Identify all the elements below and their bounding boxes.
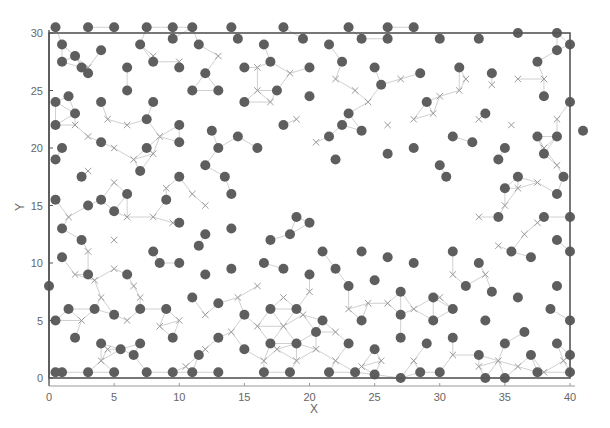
- node-marker: [122, 63, 132, 73]
- node-marker: [174, 218, 184, 228]
- node-marker: [415, 367, 425, 377]
- node-marker: [331, 155, 341, 165]
- node-marker: [194, 350, 204, 360]
- node-marker: [142, 367, 152, 377]
- node-marker: [64, 91, 74, 101]
- node-marker: [383, 252, 393, 262]
- node-marker: [239, 310, 249, 320]
- node-marker: [461, 281, 471, 291]
- node-marker: [285, 229, 295, 239]
- node-marker: [57, 143, 67, 153]
- x-axis-label: X: [310, 402, 318, 416]
- node-marker: [83, 270, 93, 280]
- node-marker: [96, 45, 106, 55]
- node-marker: [207, 126, 217, 136]
- node-marker: [344, 281, 354, 291]
- node-marker: [77, 172, 87, 182]
- node-marker: [122, 270, 132, 280]
- node-marker: [500, 143, 510, 153]
- node-marker: [558, 172, 568, 182]
- node-marker: [265, 339, 275, 349]
- y-axis-label: Y: [13, 203, 27, 211]
- node-marker: [109, 367, 119, 377]
- x-tick-label: 10: [173, 391, 185, 403]
- cross-marker: [111, 145, 117, 151]
- node-marker: [226, 264, 236, 274]
- node-marker: [252, 143, 262, 153]
- cross-marker: [85, 133, 91, 139]
- cross-marker: [202, 312, 208, 318]
- cross-marker: [254, 283, 260, 289]
- cross-marker: [157, 323, 163, 329]
- node-marker: [239, 344, 249, 354]
- cross-marker: [411, 358, 417, 364]
- node-marker: [109, 22, 119, 32]
- node-marker: [116, 344, 126, 354]
- node-marker: [259, 367, 269, 377]
- node-marker: [370, 63, 380, 73]
- y-tick-label: 10: [31, 257, 43, 269]
- node-marker: [135, 339, 145, 349]
- cross-marker: [300, 312, 306, 318]
- cross-marker: [521, 231, 527, 237]
- node-marker: [305, 91, 315, 101]
- edges-layer: [56, 27, 570, 378]
- cross-marker: [130, 156, 136, 162]
- y-tick-label: 20: [31, 142, 43, 154]
- x-tick-label: 15: [238, 391, 250, 403]
- cross-marker: [98, 294, 104, 300]
- node-marker: [226, 189, 236, 199]
- node-marker: [291, 304, 301, 314]
- node-marker: [226, 22, 236, 32]
- node-marker: [552, 45, 562, 55]
- node-marker: [396, 287, 406, 297]
- cross-marker: [65, 214, 71, 220]
- node-marker: [409, 258, 419, 268]
- node-marker: [396, 333, 406, 343]
- node-marker: [259, 258, 269, 268]
- node-marker: [122, 189, 132, 199]
- node-marker: [448, 304, 458, 314]
- node-marker: [174, 172, 184, 182]
- node-marker: [383, 34, 393, 44]
- node-marker: [376, 80, 386, 90]
- node-marker: [239, 63, 249, 73]
- cross-marker: [85, 168, 91, 174]
- node-marker: [324, 132, 334, 142]
- cross-marker: [202, 202, 208, 208]
- node-marker: [311, 327, 321, 337]
- cross-marker: [397, 76, 403, 82]
- node-marker: [422, 339, 432, 349]
- node-marker: [187, 293, 197, 303]
- node-marker: [487, 287, 497, 297]
- node-marker: [194, 40, 204, 50]
- node-marker: [285, 367, 295, 377]
- cross-marker: [430, 110, 436, 116]
- cross-marker: [189, 191, 195, 197]
- node-marker: [148, 247, 158, 257]
- node-marker: [396, 310, 406, 320]
- node-marker: [474, 350, 484, 360]
- node-marker: [526, 252, 536, 262]
- edge: [296, 349, 316, 361]
- node-marker: [187, 367, 197, 377]
- x-tick-label: 25: [369, 391, 381, 403]
- node-marker: [500, 339, 510, 349]
- cross-marker: [111, 179, 117, 185]
- cross-marker: [482, 271, 488, 277]
- node-marker: [305, 63, 315, 73]
- node-marker: [291, 339, 301, 349]
- cross-marker: [476, 116, 482, 122]
- node-marker: [539, 91, 549, 101]
- node-marker: [357, 126, 367, 136]
- node-marker: [83, 201, 93, 211]
- node-marker: [96, 339, 106, 349]
- cross-marker: [365, 99, 371, 105]
- cross-marker: [495, 358, 501, 364]
- node-marker: [155, 258, 165, 268]
- cross-marker: [202, 346, 208, 352]
- node-marker: [493, 212, 503, 222]
- node-marker: [213, 333, 223, 343]
- node-marker: [174, 120, 184, 130]
- node-marker: [357, 247, 367, 257]
